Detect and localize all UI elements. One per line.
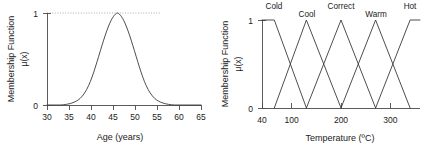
y-axis-title: Membership Function xyxy=(6,16,16,103)
y-ticklabel-0: 0 xyxy=(248,104,253,114)
x-ticklabel-100: 100 xyxy=(285,115,299,125)
y-ticklabel-1: 1 xyxy=(248,16,253,26)
set-curve-cold xyxy=(262,20,306,108)
x-ticklabel-55: 55 xyxy=(152,112,162,122)
y-axis-title-mu: μ(x) xyxy=(19,51,29,66)
y-axis-title-mu: μ(x) xyxy=(233,56,243,71)
set-curve-warm xyxy=(341,20,410,108)
set-label-hot: Hot xyxy=(404,2,417,11)
chart-panel-age: 1 0 30 35 40 45 50 55 60 65 Age (years) … xyxy=(0,0,212,155)
fuzzy-membership-figure: 1 0 30 35 40 45 50 55 60 65 Age (years) … xyxy=(0,0,424,155)
x-ticklabel-300: 300 xyxy=(383,115,397,125)
set-label-warm: Warm xyxy=(365,10,387,19)
set-curve-hot xyxy=(376,20,420,108)
set-curve-cool xyxy=(274,20,341,108)
age-membership-curve xyxy=(47,13,201,105)
chart-panel-temperature: 1 0 40 100 200 300 Temperature (ºC) Memb… xyxy=(212,0,424,155)
x-ticklabel-60: 60 xyxy=(174,112,184,122)
x-ticklabel-40: 40 xyxy=(257,115,267,125)
x-ticklabel-65: 65 xyxy=(196,112,206,122)
x-axis-title: Temperature (ºC) xyxy=(306,133,375,143)
y-axis-title: Membership Function xyxy=(220,21,230,108)
set-label-cool: Cool xyxy=(299,10,316,19)
y-ticklabel-1: 1 xyxy=(33,9,38,19)
x-ticklabel-35: 35 xyxy=(64,112,74,122)
x-ticklabel-45: 45 xyxy=(108,112,118,122)
x-ticklabel-50: 50 xyxy=(130,112,140,122)
x-ticklabel-40: 40 xyxy=(86,112,96,122)
set-label-cold: Cold xyxy=(266,2,283,11)
set-curve-correct xyxy=(306,20,375,108)
set-label-correct: Correct xyxy=(328,2,356,11)
y-ticklabel-0: 0 xyxy=(33,101,38,111)
x-ticklabel-200: 200 xyxy=(334,115,348,125)
x-axis-title: Age (years) xyxy=(97,132,144,142)
x-ticklabel-30: 30 xyxy=(42,112,52,122)
